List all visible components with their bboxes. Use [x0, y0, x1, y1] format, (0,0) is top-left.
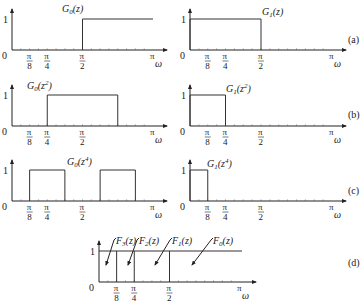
panel-tag-b: (b) [348, 109, 360, 121]
x-axis-label-omega: ω [334, 58, 341, 69]
x-axis-label-omega: ω [155, 58, 162, 69]
x-tick-denominator: 8 [205, 61, 210, 71]
x-tick-numerator: π [258, 51, 263, 61]
y-tick-label-1: 1 [3, 165, 8, 176]
x-tick-numerator: π [44, 127, 49, 137]
y-tick-label-1: 1 [3, 14, 8, 25]
passband [190, 170, 208, 201]
x-tick-numerator: π [131, 283, 136, 293]
x-tick-numerator: π [205, 127, 210, 137]
origin-label: 0 [2, 50, 7, 61]
x-tick-numerator: π [27, 51, 32, 61]
x-axis-label-omega: ω [155, 134, 162, 145]
x-tick-denominator: 8 [205, 212, 210, 222]
x-tick-denominator: 8 [114, 293, 119, 303]
x-axis-label-omega: ω [334, 209, 341, 220]
x-tick-numerator: π [114, 283, 119, 293]
passband [190, 95, 226, 126]
filter-label: G1(z2) [226, 82, 251, 96]
x-tick-numerator: π [80, 51, 85, 61]
x-tick-denominator: 8 [27, 137, 32, 147]
x-tick-numerator: π [167, 283, 172, 293]
panel-tag-a: (a) [348, 34, 359, 46]
x-tick-numerator: π [223, 202, 228, 212]
plot-c-0: 10π8π4π2πωG0(z4) [2, 155, 167, 222]
filter-label: G0(z) [62, 3, 84, 16]
filter-label: G1(z) [262, 6, 284, 19]
x-tick-denominator: 2 [259, 137, 264, 147]
panel-tag-c: (c) [348, 185, 359, 197]
x-tick-denominator: 4 [223, 137, 228, 147]
origin-label: 0 [180, 201, 185, 212]
x-tick-numerator: π [223, 127, 228, 137]
panel-b: 10π8π4π2πωG0(z2)10π8π4π2πωG1(z2)(b) [2, 79, 360, 147]
passband [83, 19, 154, 50]
origin-label: 0 [89, 282, 94, 293]
x-axis-label-omega: ω [155, 209, 162, 220]
x-tick-numerator: π [258, 202, 263, 212]
x-tick-denominator: 8 [205, 137, 210, 147]
passband [190, 19, 261, 50]
plot-b-0: 10π8π4π2πωG0(z2) [2, 79, 167, 147]
y-tick-label-1: 1 [181, 14, 186, 25]
x-tick-denominator: 2 [259, 61, 264, 71]
filter-label-F2: F2(z) [138, 235, 160, 248]
x-tick-numerator: π [205, 51, 210, 61]
origin-label: 0 [2, 126, 7, 137]
plot-a-1: 10π8π4π2πωG1(z) [180, 6, 346, 71]
origin-label: 0 [2, 201, 7, 212]
panel-c: 10π8π4π2πωG0(z4)10π8π4π2πωG1(z4)(c) [2, 155, 359, 222]
x-tick-numerator: π [80, 202, 85, 212]
plot-a-0: 10π8π4π2πωG0(z) [2, 3, 167, 71]
origin-label: 0 [180, 126, 185, 137]
x-tick-numerator: π [223, 51, 228, 61]
x-tick-numerator: π [27, 127, 32, 137]
y-tick-label-1: 1 [181, 165, 186, 176]
x-tick-denominator: 8 [27, 61, 32, 71]
origin-label: 0 [180, 50, 185, 61]
x-tick-denominator: 2 [80, 212, 85, 222]
plot-b-1: 10π8π4π2πωG1(z2) [180, 82, 346, 147]
filter-label-F3: F3(z) [115, 235, 137, 248]
filter-label: G0(z2) [27, 79, 52, 93]
passband [47, 95, 118, 126]
x-tick-denominator: 2 [259, 212, 264, 222]
x-tick-denominator: 4 [45, 61, 50, 71]
x-tick-numerator: π [44, 51, 49, 61]
x-tick-denominator: 2 [80, 137, 85, 147]
plot-c-1: 10π8π4π2πωG1(z4) [180, 157, 346, 222]
x-tick-denominator: 4 [223, 61, 228, 71]
y-tick-label-1: 1 [3, 90, 8, 101]
x-tick-numerator: π [44, 202, 49, 212]
x-tick-numerator: π [27, 202, 32, 212]
y-tick-label-1: 1 [181, 90, 186, 101]
plot-d-0: 10π8π4π2πωF3(z)F2(z)F1(z)F0(z) [89, 235, 256, 303]
x-tick-numerator: π [205, 202, 210, 212]
x-tick-denominator: 8 [27, 212, 32, 222]
x-axis-label-omega: ω [242, 290, 249, 301]
y-tick-label-1: 1 [90, 246, 95, 257]
passband [30, 170, 65, 201]
panel-d: 10π8π4π2πωF3(z)F2(z)F1(z)F0(z)(d) [89, 235, 360, 303]
x-tick-denominator: 4 [45, 137, 50, 147]
x-tick-denominator: 4 [223, 212, 228, 222]
panel-tag-d: (d) [348, 257, 360, 269]
filter-label-F1: F1(z) [171, 235, 193, 248]
filter-label: G1(z4) [207, 157, 232, 171]
filter-bank-figure: 10π8π4π2πωG0(z)10π8π4π2πωG1(z)(a)10π8π4π… [0, 0, 364, 305]
filter-label-F0: F0(z) [212, 235, 234, 248]
x-axis-label-omega: ω [334, 134, 341, 145]
x-tick-denominator: 4 [132, 293, 137, 303]
x-tick-numerator: π [258, 127, 263, 137]
x-tick-denominator: 4 [45, 212, 50, 222]
passband [100, 170, 135, 201]
x-tick-numerator: π [80, 127, 85, 137]
x-tick-denominator: 2 [167, 293, 172, 303]
filter-label: G0(z4) [67, 155, 92, 169]
panel-a: 10π8π4π2πωG0(z)10π8π4π2πωG1(z)(a) [2, 3, 359, 71]
x-tick-denominator: 2 [80, 61, 85, 71]
